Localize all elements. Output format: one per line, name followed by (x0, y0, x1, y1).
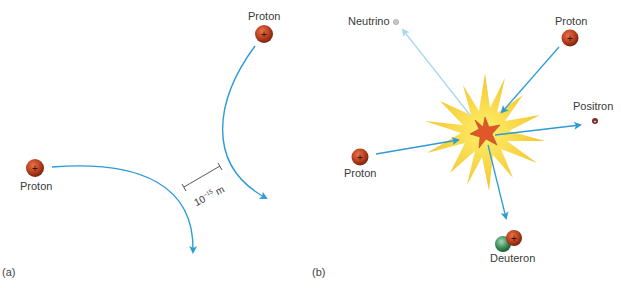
svg-text:+: + (32, 163, 38, 174)
trajectory-arrow (52, 166, 193, 252)
proton-icon: + (352, 149, 369, 166)
proton-icon: + (562, 30, 579, 47)
proton-label: Proton (555, 15, 587, 27)
trajectory-arrow (502, 47, 559, 112)
neutrino-icon (393, 19, 398, 24)
svg-text:+: + (594, 118, 597, 124)
fusion-diagram: + + + (0, 0, 621, 288)
svg-text:+: + (511, 233, 517, 244)
proton-label: Proton (344, 167, 376, 179)
positron-icon: + (592, 118, 598, 124)
neutrino-arrow (403, 30, 470, 115)
proton-label: Proton (248, 10, 280, 22)
panel-b: + + + + (352, 19, 599, 252)
positron-label: Positron (573, 100, 613, 112)
neutrino-label: Neutrino (348, 15, 390, 27)
deuteron-icon: + (495, 230, 522, 252)
proton-icon: + (26, 159, 44, 177)
trajectory-arrow (223, 46, 266, 198)
svg-text:+: + (261, 29, 267, 40)
panel-a-label: (a) (2, 266, 15, 278)
deuteron-label: Deuteron (490, 252, 535, 264)
proton-label: Proton (20, 180, 52, 192)
panel-b-label: (b) (312, 266, 325, 278)
explosion-burst-icon (425, 73, 545, 191)
svg-text:+: + (567, 33, 573, 44)
panel-a: + + (26, 25, 273, 252)
svg-text:+: + (357, 152, 363, 163)
proton-icon: + (255, 25, 273, 43)
